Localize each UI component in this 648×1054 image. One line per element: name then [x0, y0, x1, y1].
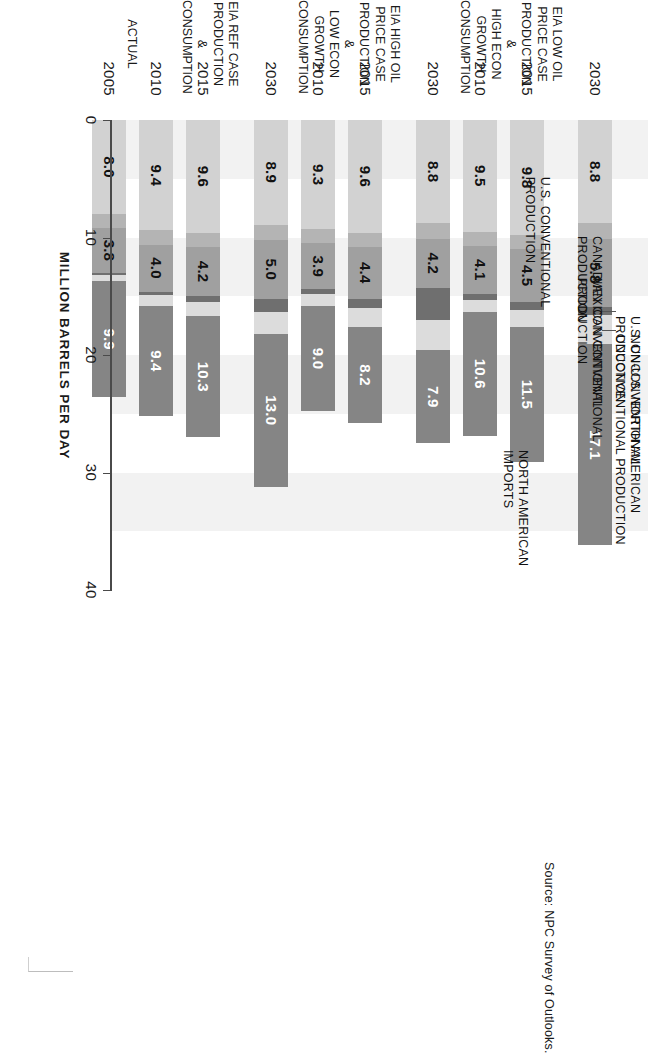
bar-value-label: 9.6	[195, 166, 212, 187]
bar-segment: 9.6	[348, 120, 382, 233]
bar-segment	[348, 308, 382, 327]
bar-segment: 8.9	[254, 120, 288, 225]
bar-segment	[92, 214, 126, 228]
group-label: EIA REF CASE PRODUCTION & CONSUMPTION	[179, 0, 240, 88]
callout-label: U.S. UNCONVENTIONAL PRODUCTION	[613, 316, 643, 465]
bar-segment: 4.2	[416, 239, 450, 288]
bar-segment: 9.3	[301, 120, 335, 229]
bar-segment	[254, 312, 288, 334]
bar-segment: 11.5	[510, 327, 544, 462]
axis-tick-label: 10	[83, 229, 100, 246]
axis-tick	[103, 238, 112, 239]
bar-segment	[301, 229, 335, 243]
bar-segment: 10.6	[463, 312, 497, 437]
bar-value-label: 8.8	[425, 161, 442, 182]
bar-segment	[186, 302, 220, 316]
bar-value-label: 5.0	[263, 258, 280, 279]
bar-segment: 13.0	[254, 334, 288, 487]
callout-leader-line	[602, 311, 616, 312]
bar-value-label: 8.9	[263, 162, 280, 183]
bar-segment: 4.0	[139, 245, 173, 292]
bar-value-label: 13.0	[263, 395, 280, 425]
bar-value-label: 3.8	[101, 240, 118, 261]
bar-segment: 4.1	[463, 246, 497, 294]
group-label: EIA HIGH OIL PRICE CASE PRODUCTION & LOW…	[295, 0, 402, 88]
bar-segment	[416, 223, 450, 238]
bar-value-label: 9.9	[101, 328, 118, 349]
value-axis-title: MILLION BARRELS PER DAY	[57, 120, 72, 591]
group-label: ACTUAL	[124, 0, 139, 88]
bar-value-label: 4.1	[472, 259, 489, 280]
bar-segment: 5.0	[254, 240, 288, 299]
axis-tick-label: 20	[83, 346, 100, 363]
bar-value-label: 7.9	[425, 386, 442, 407]
bar-segment	[416, 320, 450, 351]
bar-value-label: 11.5	[519, 380, 536, 409]
bar-segment: 10.3	[186, 316, 220, 437]
bar-segment: 4.2	[186, 247, 220, 296]
axis-tick-label: 30	[83, 464, 100, 481]
axis-tick	[103, 590, 112, 591]
bar-segment	[463, 300, 497, 312]
callout-label: NORTH AMERICAN IMPORTS	[501, 450, 531, 566]
bar-segment: 9.0	[301, 306, 335, 412]
bar-segment	[254, 225, 288, 240]
bar-value-label: 9.0	[310, 348, 327, 369]
bar-segment	[139, 295, 173, 306]
bar-segment	[301, 294, 335, 306]
bar-value-label: 9.4	[148, 164, 165, 185]
bar-segment	[348, 299, 382, 308]
axis-tick	[103, 355, 112, 356]
callout-label: CANADIAN CONVENTIONAL PRODUCTION	[575, 236, 605, 408]
bar-value-label: 9.6	[357, 166, 374, 187]
bar-value-label: 4.4	[357, 262, 374, 283]
bar-segment: 9.4	[139, 120, 173, 230]
bar-segment: 7.9	[416, 350, 450, 443]
bar-segment: 8.8	[578, 120, 612, 223]
bar-value-label: 10.6	[472, 359, 489, 389]
bar-segment: 8.2	[348, 327, 382, 423]
bar-segment	[416, 288, 450, 320]
axis-tick-label: 40	[83, 581, 100, 598]
callout-label: U.S. CONVENTIONAL PRODUCTION	[523, 177, 553, 308]
bar-value-label: 4.0	[148, 257, 165, 278]
bar-segment: 9.5	[463, 120, 497, 232]
bar-segment: 8.8	[416, 120, 450, 223]
crop-mark	[28, 957, 73, 972]
group-label: EIA LOW OIL PRICE CASE PRODUCTION & HIGH…	[457, 0, 564, 88]
bar-segment: 8.0	[92, 120, 126, 214]
bar-value-label: 4.2	[195, 261, 212, 282]
axis-tick	[103, 473, 112, 474]
bar-value-label: 9.3	[310, 164, 327, 185]
bar-value-label: 9.5	[472, 165, 489, 186]
bar-segment: 9.9	[92, 281, 126, 397]
bar-segment: 9.4	[139, 306, 173, 416]
axis-tick	[103, 120, 112, 121]
bar-segment: 3.9	[301, 243, 335, 289]
bar-segment	[463, 232, 497, 246]
bar-value-label: 4.2	[425, 253, 442, 274]
axis-tick-label: 0	[83, 116, 100, 125]
bar-value-label: 8.2	[357, 364, 374, 385]
source-note: Source: NPC Survey of Outlooks.	[542, 862, 556, 1054]
bar-segment	[510, 310, 544, 326]
bar-value-label: 8.0	[101, 156, 118, 177]
bar-value-label: 9.4	[148, 350, 165, 371]
bar-segment	[186, 233, 220, 247]
bar-segment: 9.6	[186, 120, 220, 233]
bar-value-label: 8.8	[587, 161, 604, 182]
bar-value-label: 3.9	[310, 256, 327, 277]
bar-segment	[348, 233, 382, 247]
bar-segment: 4.4	[348, 247, 382, 299]
bar-segment	[139, 230, 173, 244]
bar-segment	[254, 299, 288, 312]
bar-value-label: 10.3	[195, 362, 212, 392]
